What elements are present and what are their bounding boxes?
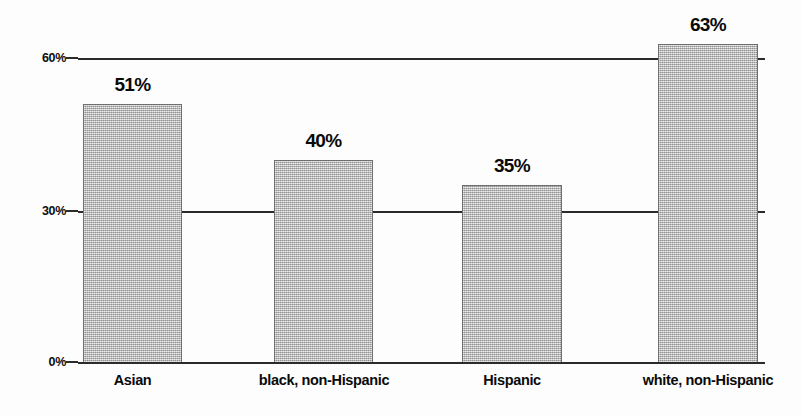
bar-white-non-hispanic bbox=[658, 44, 758, 362]
y-tick-label-0: 0% bbox=[6, 355, 66, 369]
category-label-asian: Asian bbox=[83, 372, 182, 388]
bar-value-black-non-hispanic: 40% bbox=[274, 130, 373, 152]
y-tick-label-30: 30% bbox=[6, 204, 66, 218]
bar-value-asian: 51% bbox=[83, 74, 182, 96]
bar-value-hispanic: 35% bbox=[462, 155, 562, 177]
bar-asian bbox=[83, 104, 182, 362]
bar-hispanic bbox=[462, 185, 562, 362]
axis-baseline-0 bbox=[78, 362, 765, 364]
category-label-black-non-hispanic: black, non-Hispanic bbox=[254, 372, 394, 388]
y-tick-label-60: 60% bbox=[6, 51, 66, 65]
y-tick-mark-60 bbox=[66, 57, 78, 59]
plot-area bbox=[78, 20, 765, 362]
category-label-white-non-hispanic: white, non-Hispanic bbox=[638, 372, 778, 388]
y-tick-mark-30 bbox=[66, 210, 78, 212]
y-tick-mark-0 bbox=[66, 361, 78, 363]
bar-black-non-hispanic bbox=[274, 160, 373, 362]
bar-chart: 0% 30% 60% 51% 40% 35% 63% Asian black, … bbox=[0, 0, 802, 416]
category-label-hispanic: Hispanic bbox=[462, 372, 562, 388]
bar-value-white-non-hispanic: 63% bbox=[658, 14, 758, 36]
